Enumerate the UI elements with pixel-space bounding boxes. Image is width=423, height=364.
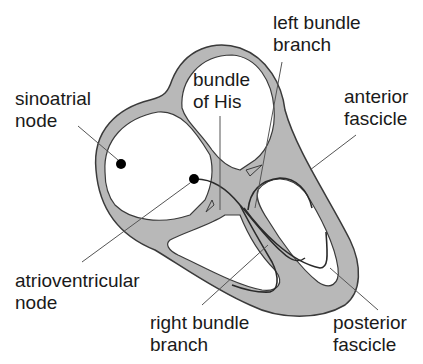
label-left-bundle-branch: left bundle branch xyxy=(273,12,361,56)
label-posterior-fascicle: posterior fascicle xyxy=(333,312,407,356)
atrioventricular-node xyxy=(189,174,199,184)
label-atrioventricular-node: atrioventricular node xyxy=(15,270,140,314)
label-anterior-fascicle: anterior fascicle xyxy=(344,86,408,130)
label-right-bundle-branch: right bundle branch xyxy=(150,312,249,356)
pointer-anterior xyxy=(310,135,356,170)
sinoatrial-node xyxy=(116,159,126,169)
label-bundle-of-his: bundle of His xyxy=(193,69,250,113)
label-sinoatrial-node: sinoatrial node xyxy=(15,88,91,132)
